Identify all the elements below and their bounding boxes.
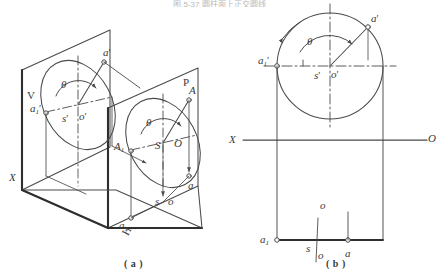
label-x-axis-b: X xyxy=(229,134,236,145)
label-a-h-plane: a xyxy=(188,180,194,191)
label-O-point-p: O xyxy=(174,138,182,149)
figure-root: 图 5-37 圆柱面上正交圆线 xyxy=(0,0,439,277)
figure-linework xyxy=(0,0,439,277)
label-s-prime-b: s′ xyxy=(314,70,320,81)
label-theta-p: θ xyxy=(146,117,151,128)
label-theta-b: θ xyxy=(307,36,312,47)
label-theta-v: θ xyxy=(61,79,66,90)
label-o-top-b: o xyxy=(320,200,326,211)
label-a1-prime-v: a1′ xyxy=(30,103,41,116)
caption-b: ( b ) xyxy=(326,258,346,269)
diagram-b-group xyxy=(243,4,427,262)
label-s-h-b: s xyxy=(306,243,310,254)
label-s-h-plane: s xyxy=(155,196,159,207)
caption-a: ( a ) xyxy=(124,258,143,269)
label-o-axis-b: O xyxy=(428,133,436,144)
label-a1-h-b: a1 xyxy=(260,234,269,247)
label-A1-point-p: A1 xyxy=(114,141,124,154)
label-s-prime-v: s′ xyxy=(62,113,68,124)
label-v-plane: V xyxy=(27,90,35,101)
label-a-prime-v: a′ xyxy=(103,47,111,58)
label-o-bottom-b: o xyxy=(318,250,324,261)
h-plane-outline xyxy=(22,190,202,228)
label-o-h-plane: o xyxy=(168,196,174,207)
label-a-prime-b: a′ xyxy=(371,13,379,24)
b-radius-line xyxy=(330,27,368,66)
label-S-point-p: S xyxy=(155,140,161,151)
label-o-prime-v: o′ xyxy=(79,111,87,122)
label-o-prime-b: o′ xyxy=(331,69,339,80)
diagram-a-group xyxy=(22,30,215,228)
label-A-point-p: A xyxy=(189,85,196,96)
label-a1-prime-b: a1′ xyxy=(258,55,269,68)
label-x-axis-a: X xyxy=(9,172,16,183)
